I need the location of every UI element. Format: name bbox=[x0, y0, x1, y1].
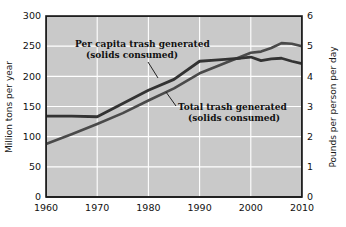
xtick-1990: 1990 bbox=[188, 202, 212, 213]
ytick-0: 0 bbox=[35, 191, 41, 202]
y2tick-1: 1 bbox=[307, 161, 313, 172]
ytick-50: 50 bbox=[29, 161, 41, 172]
xtick-2000: 2000 bbox=[239, 202, 263, 213]
xtick-2010: 2010 bbox=[290, 202, 314, 213]
ytick-200: 200 bbox=[23, 71, 41, 82]
ytick-300: 300 bbox=[23, 10, 41, 21]
y2tick-5: 5 bbox=[307, 40, 313, 51]
ytick-100: 100 bbox=[23, 131, 41, 142]
xtick-1980: 1980 bbox=[136, 202, 160, 213]
y2tick-2: 2 bbox=[307, 131, 313, 142]
per-capita-annotation-line1: Per capita trash generated bbox=[75, 39, 210, 49]
y2tick-4: 4 bbox=[307, 71, 313, 82]
y2tick-6: 6 bbox=[307, 10, 313, 21]
per-capita-annotation-line2: (solids consumed) bbox=[86, 50, 178, 60]
xtick-1960: 1960 bbox=[34, 202, 58, 213]
y2tick-3: 3 bbox=[307, 101, 313, 112]
total-trash-annotation-line2: (solids consumed) bbox=[188, 113, 280, 123]
ytick-250: 250 bbox=[23, 40, 41, 51]
y2tick-0: 0 bbox=[307, 191, 313, 202]
ytick-150: 150 bbox=[23, 101, 41, 112]
trash-generation-chart: 0 50 100 150 200 250 300 0 1 2 3 4 5 6 1… bbox=[0, 0, 346, 227]
left-axis-title: Million tons per year bbox=[4, 61, 14, 153]
total-trash-annotation-line1: Total trash generated bbox=[178, 102, 287, 112]
right-axis-title: Pounds per person per day bbox=[328, 46, 338, 168]
xtick-1970: 1970 bbox=[85, 202, 109, 213]
